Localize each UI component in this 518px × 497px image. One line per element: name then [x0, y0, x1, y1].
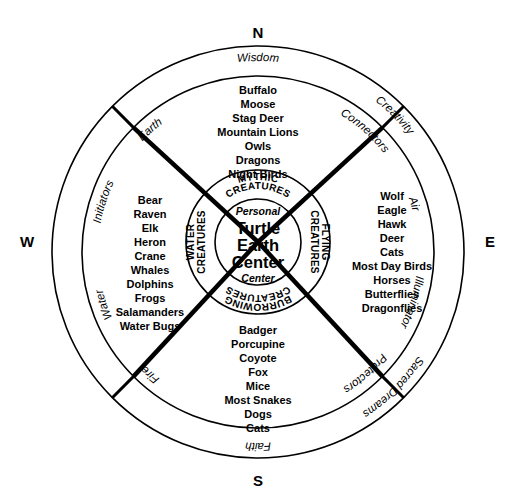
list-item: Most Snakes: [224, 394, 291, 406]
inner-ring-water-line1: WATER: [185, 223, 196, 260]
list-item: Whales: [131, 264, 170, 276]
list-item: Eagle: [377, 204, 406, 216]
list-item: Frogs: [135, 292, 166, 304]
list-item: Dragonflies: [362, 302, 423, 314]
middle-label-water: Water: [92, 288, 114, 322]
list-item: Moose: [241, 98, 276, 110]
compass-east: E: [485, 233, 495, 250]
list-item: Dogs: [244, 408, 272, 420]
quadrant-north-list: Buffalo Moose Stag Deer Mountain Lions O…: [217, 84, 298, 180]
list-item: Bear: [138, 194, 163, 206]
list-item: Night Birds: [228, 168, 287, 180]
tick-outer-sw: [112, 376, 133, 397]
medicine-wheel-diagram: N S W E Wisdom Faith Sacred Dreams Creat…: [0, 0, 518, 497]
compass-north: N: [253, 24, 264, 41]
center-personal-label: Personal: [236, 205, 281, 217]
list-item: Mountain Lions: [217, 126, 298, 138]
list-item: Cats: [246, 422, 270, 434]
list-item: Dolphins: [126, 278, 173, 290]
middle-label-air: Air: [407, 194, 423, 213]
center-title-line2: Earth: [237, 236, 279, 254]
inner-ring-flying-line2: CREATURES: [309, 210, 320, 273]
list-item: Heron: [134, 236, 166, 248]
list-item: Wolf: [380, 190, 404, 202]
list-item: Elk: [142, 222, 159, 234]
list-item: Butterflies: [365, 288, 419, 300]
outer-label-wisdom: Wisdom: [237, 51, 280, 64]
quadrant-south-list: Badger Porcupine Coyote Fox Mice Most Sn…: [224, 324, 291, 434]
list-item: Salamanders: [116, 306, 184, 318]
center-center-label: Center: [241, 272, 275, 284]
compass-west: W: [20, 233, 35, 250]
list-item: Most Day Birds: [352, 260, 432, 272]
tick-outer-nw: [112, 106, 133, 127]
list-item: Coyote: [239, 352, 276, 364]
center-title-line3: Center: [232, 253, 285, 271]
compass-south: S: [253, 472, 263, 489]
list-item: Badger: [239, 324, 278, 336]
wheel-svg: N S W E Wisdom Faith Sacred Dreams Creat…: [0, 0, 518, 497]
inner-ring-flying-line1: FLYING: [320, 224, 331, 261]
quadrant-west-list: Bear Raven Elk Heron Crane Whales Dolphi…: [116, 194, 184, 332]
outer-label-faith: Faith: [245, 441, 271, 453]
list-item: Horses: [373, 274, 410, 286]
list-item: Fox: [248, 366, 268, 378]
list-item: Crane: [134, 250, 165, 262]
list-item: Mice: [246, 380, 270, 392]
middle-label-earth: Earth: [135, 115, 164, 143]
list-item: Stag Deer: [232, 112, 284, 124]
center-title-line1: Turtle: [236, 219, 281, 237]
list-item: Cats: [380, 246, 404, 258]
list-item: Water Bugs: [120, 320, 181, 332]
list-item: Hawk: [378, 218, 408, 230]
list-item: Owls: [245, 140, 271, 152]
list-item: Raven: [133, 208, 166, 220]
list-item: Buffalo: [239, 84, 277, 96]
list-item: Porcupine: [231, 338, 285, 350]
list-item: Deer: [380, 232, 405, 244]
inner-ring-mythic-line2: CREATURES: [224, 180, 293, 200]
list-item: Dragons: [236, 154, 281, 166]
inner-ring-water-line2: CREATURES: [196, 210, 207, 273]
